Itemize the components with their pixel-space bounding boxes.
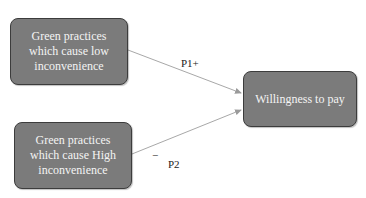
node-high-line-1: Green practices [30,133,116,148]
node-high-inconvenience: Green practices which cause High inconve… [14,122,132,189]
edge-label-p1: P1+ [181,57,199,69]
node-low-line-3: inconvenience [29,59,109,74]
edge-sign-p2: − [152,149,158,161]
node-high-line-3: inconvenience [30,163,116,178]
node-wtp-label: Willingness to pay [255,92,345,107]
edge-label-p2: P2 [168,158,180,170]
node-low-line-2: which cause low [29,44,109,59]
node-low-inconvenience: Green practices which cause low inconven… [10,18,128,85]
node-willingness-to-pay: Willingness to pay [243,71,357,127]
arrow-p2 [132,110,241,154]
node-low-line-1: Green practices [29,29,109,44]
node-high-line-2: which cause High [30,148,116,163]
